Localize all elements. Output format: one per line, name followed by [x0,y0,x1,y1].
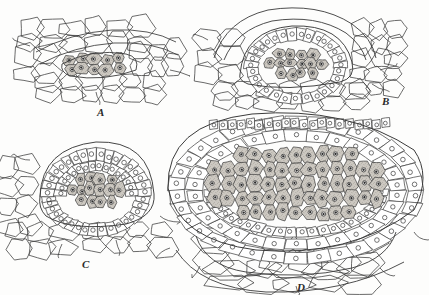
illustration-plate: A B C D [0,0,429,295]
panel-label-d: D [297,281,305,293]
panel-d [156,113,429,295]
panel-label-a: A [97,106,105,118]
panel-label-b: B [382,95,390,107]
sporangium-development-figure [0,0,429,295]
panel-b [192,8,408,113]
panel-label-c: C [82,258,90,270]
panel-a [13,14,191,105]
panel-c [0,142,180,260]
